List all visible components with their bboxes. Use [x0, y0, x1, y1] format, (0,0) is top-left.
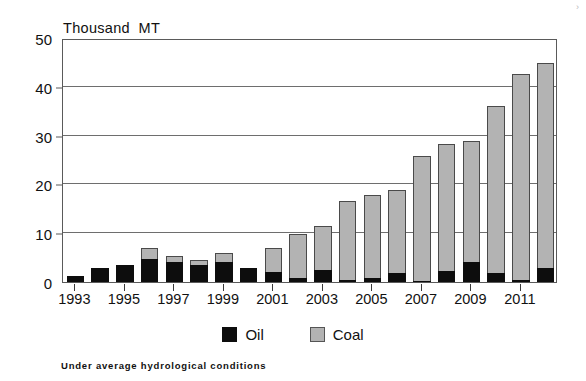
bar-segment-oil-2006: [388, 273, 405, 282]
x-tick-label-2011: 2011: [504, 291, 535, 307]
bar-2000: [240, 268, 257, 282]
bar-segment-coal-2003: [314, 226, 331, 269]
bar-2005: [364, 195, 381, 282]
x-tick-mark-2001: [272, 284, 273, 291]
y-tick-label-0: 0: [8, 275, 52, 292]
chart-footnote: Under average hydrological conditions: [61, 360, 266, 371]
bar-segment-oil-1995: [116, 265, 133, 282]
bar-segment-coal-2006: [388, 190, 405, 273]
chart-figure: › Thousand MT 01020304050 19931995199719…: [0, 0, 586, 381]
page-corner-mark: ›: [576, 3, 582, 12]
legend-label-coal: Coal: [333, 326, 364, 343]
legend-item-coal: Coal: [310, 326, 364, 343]
gray-square-swatch-icon: [310, 327, 325, 342]
bar-segment-oil-2009: [463, 262, 480, 282]
bar-1998: [190, 260, 207, 282]
bar-segment-coal-2005: [364, 195, 381, 278]
x-tick-label-1993: 1993: [58, 291, 90, 307]
x-tick-label-1999: 1999: [207, 291, 239, 307]
bar-segment-oil-2001: [265, 272, 282, 282]
bar-segment-oil-2012: [537, 268, 554, 282]
bar-1997: [166, 256, 183, 282]
y-tick-label-50: 50: [8, 31, 52, 48]
bar-segment-coal-2001: [265, 248, 282, 272]
bar-2011: [512, 74, 529, 282]
bar-2010: [487, 106, 504, 282]
bar-segment-oil-2004: [339, 280, 356, 282]
y-tick-label-40: 40: [8, 79, 52, 96]
x-tick-mark-2003: [322, 284, 323, 291]
bar-segment-oil-1998: [190, 265, 207, 282]
x-tick-mark-1995: [124, 284, 125, 291]
x-tick-mark-1997: [173, 284, 174, 291]
bar-segment-oil-1993: [67, 276, 84, 282]
x-tick-mark-1999: [223, 284, 224, 291]
bar-segment-oil-1994: [91, 268, 108, 282]
y-tick-label-10: 10: [8, 226, 52, 243]
black-square-swatch-icon: [222, 327, 237, 342]
bar-segment-oil-2008: [438, 271, 455, 282]
bar-1993: [67, 276, 84, 282]
y-tick-mark-30: [56, 136, 62, 137]
chart-legend: Oil Coal: [0, 326, 586, 343]
plot-area: [62, 39, 557, 283]
bar-segment-oil-2003: [314, 270, 331, 282]
x-tick-label-2007: 2007: [405, 291, 437, 307]
bar-segment-coal-1997: [166, 256, 183, 263]
y-tick-mark-40: [56, 87, 62, 88]
bar-segment-oil-1996: [141, 259, 158, 282]
bar-series-container: [63, 40, 556, 282]
y-tick-label-30: 30: [8, 128, 52, 145]
bar-segment-oil-1997: [166, 262, 183, 282]
bar-2004: [339, 201, 356, 282]
x-tick-mark-2005: [371, 284, 372, 291]
bar-2006: [388, 190, 405, 282]
x-tick-mark-2009: [470, 284, 471, 291]
bar-segment-coal-2008: [438, 144, 455, 271]
bar-segment-coal-2012: [537, 63, 554, 267]
bar-segment-coal-1996: [141, 248, 158, 259]
y-axis-unit-label: Thousand MT: [63, 20, 160, 36]
bar-2003: [314, 226, 331, 282]
bar-2012: [537, 63, 554, 282]
bar-segment-coal-2009: [463, 141, 480, 262]
bar-segment-coal-2007: [413, 156, 430, 280]
bar-segment-coal-2011: [512, 74, 529, 279]
bar-1995: [116, 265, 133, 282]
bar-segment-coal-2010: [487, 106, 504, 272]
x-tick-label-2009: 2009: [454, 291, 486, 307]
bar-1994: [91, 268, 108, 282]
bar-segment-oil-2002: [289, 278, 306, 282]
x-tick-mark-2007: [421, 284, 422, 291]
x-tick-label-2003: 2003: [306, 291, 338, 307]
bar-2008: [438, 144, 455, 282]
bar-segment-oil-2005: [364, 278, 381, 282]
x-tick-mark-2011: [520, 284, 521, 291]
bar-segment-oil-2011: [512, 280, 529, 282]
x-tick-label-2001: 2001: [256, 291, 288, 307]
bar-segment-coal-1999: [215, 253, 232, 262]
bar-2007: [413, 156, 430, 282]
x-tick-mark-1993: [74, 284, 75, 291]
bar-2001: [265, 248, 282, 282]
bar-2009: [463, 141, 480, 282]
bar-segment-oil-2000: [240, 268, 257, 282]
y-tick-mark-10: [56, 234, 62, 235]
bar-segment-oil-1999: [215, 262, 232, 282]
bar-segment-oil-2007: [413, 281, 430, 282]
legend-label-oil: Oil: [245, 326, 263, 343]
x-tick-label-2005: 2005: [355, 291, 387, 307]
y-tick-mark-20: [56, 185, 62, 186]
bar-1996: [141, 248, 158, 282]
bar-1999: [215, 253, 232, 282]
x-tick-label-1995: 1995: [108, 291, 140, 307]
legend-item-oil: Oil: [222, 326, 263, 343]
y-tick-label-20: 20: [8, 177, 52, 194]
bar-segment-oil-2010: [487, 273, 504, 282]
bar-2002: [289, 234, 306, 282]
x-tick-label-1997: 1997: [157, 291, 189, 307]
bar-segment-coal-2002: [289, 234, 306, 277]
bar-segment-coal-2004: [339, 201, 356, 281]
